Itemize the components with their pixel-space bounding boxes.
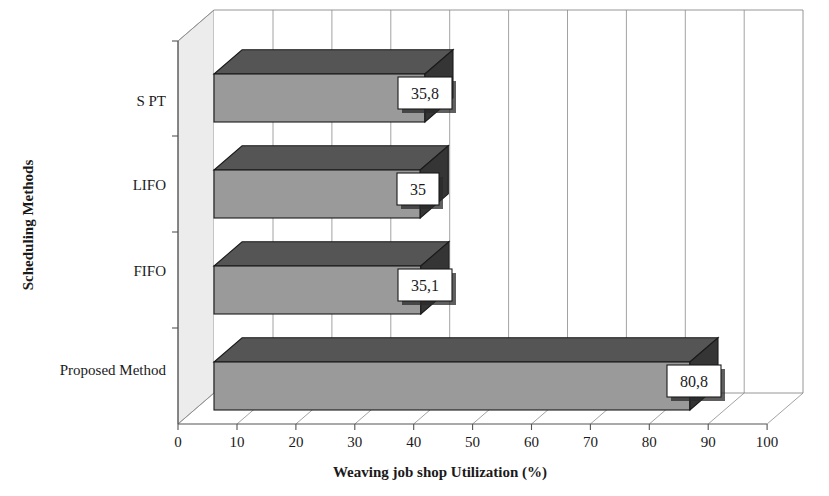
xtick-label-0: 0 xyxy=(174,434,182,450)
data-label-fifo-text: 35,1 xyxy=(411,277,439,294)
left-wall-surface xyxy=(178,10,214,424)
y-axis-ticks xyxy=(172,41,178,328)
data-label-proposed-method-text: 80,8 xyxy=(680,373,708,390)
bar-spt-front-face xyxy=(214,74,425,122)
xtick-label-50: 50 xyxy=(465,434,480,450)
category-label-proposed-method: Proposed Method xyxy=(60,362,167,378)
xtick-label-40: 40 xyxy=(406,434,421,450)
data-label-lifo-text: 35 xyxy=(410,181,426,198)
bar-fifo-top-face xyxy=(214,242,449,266)
xtick-label-30: 30 xyxy=(347,434,362,450)
data-label-proposed-method: 80,8 xyxy=(667,365,725,401)
category-label-fifo: FIFO xyxy=(133,263,166,279)
data-label-lifo: 35 xyxy=(397,173,443,209)
xtick-label-60: 60 xyxy=(524,434,539,450)
chart-canvas: 0 10 20 30 40 50 60 70 80 90 100 S PT LI… xyxy=(0,0,829,496)
bar-proposed-method-top-face xyxy=(214,338,718,362)
bar-lifo-front-face xyxy=(214,170,420,218)
xtick-label-80: 80 xyxy=(642,434,657,450)
data-label-fifo: 35,1 xyxy=(398,269,456,305)
x-axis-title: Weaving job shop Utilization (%) xyxy=(333,464,547,481)
bar-chart-figure: 0 10 20 30 40 50 60 70 80 90 100 S PT LI… xyxy=(0,0,829,496)
bar-spt-top-face xyxy=(214,50,453,74)
category-label-lifo: LIFO xyxy=(133,177,167,193)
xtick-label-70: 70 xyxy=(583,434,598,450)
data-label-spt-text: 35,8 xyxy=(411,85,439,102)
y-axis-category-labels: S PT LIFO FIFO Proposed Method xyxy=(60,93,167,378)
bar-proposed-method-front-face xyxy=(214,362,690,410)
xtick-label-20: 20 xyxy=(288,434,303,450)
bar-lifo-top-face xyxy=(214,146,448,170)
x-axis-ticks xyxy=(178,424,767,430)
bar-proposed-method[interactable] xyxy=(214,338,718,410)
plot-left-wall xyxy=(178,10,214,424)
xtick-label-10: 10 xyxy=(230,434,245,450)
y-axis-title: Scheduling Methods xyxy=(20,160,36,291)
xtick-label-90: 90 xyxy=(701,434,716,450)
x-axis-tick-labels: 0 10 20 30 40 50 60 70 80 90 100 xyxy=(174,434,778,450)
data-label-spt: 35,8 xyxy=(398,77,456,113)
category-label-spt: S PT xyxy=(136,93,166,109)
xtick-label-100: 100 xyxy=(756,434,779,450)
bar-fifo-front-face xyxy=(214,266,421,314)
